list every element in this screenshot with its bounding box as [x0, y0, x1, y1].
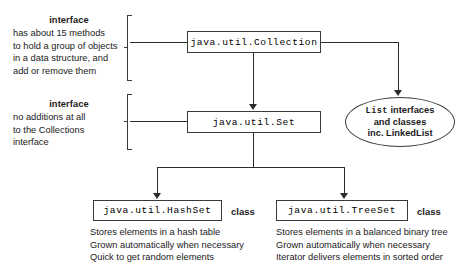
diagram-canvas: interface has about 15 methods to hold a… — [0, 0, 471, 271]
node-java-util-collection[interactable]: java.util.Collection — [187, 31, 321, 53]
arrowhead-set-to-hashset — [153, 193, 161, 199]
list-bubble-line-3: inc. LinkedList — [367, 128, 432, 139]
list-interfaces-bubble[interactable]: List interfaces and classes inc. LinkedL… — [345, 97, 455, 147]
connector-set-to-hashset — [157, 167, 158, 194]
description-hashset: Stores elements in a hash table Grown au… — [90, 226, 244, 264]
list-bubble-line-1: List interfaces — [366, 105, 435, 117]
annotation-header: interface — [13, 98, 125, 110]
connector-set-trunk — [253, 133, 254, 168]
node-java-util-set[interactable]: java.util.Set — [187, 111, 321, 133]
annotation-line: to hold a group of objects — [13, 40, 125, 52]
annotation-line: to the Collections — [13, 124, 125, 136]
description-line: Stores elements in a balanced binary tre… — [276, 226, 448, 239]
node-java-util-hashset[interactable]: java.util.HashSet — [93, 200, 222, 221]
connector-collection-to-set — [253, 53, 254, 105]
list-bubble-rest-label: interfaces — [390, 105, 434, 115]
arrowhead-collection-to-set — [249, 104, 257, 110]
connector-note-to-set — [130, 121, 187, 122]
description-treeset: Stores elements in a balanced binary tre… — [276, 226, 448, 264]
bracket-collection — [124, 15, 133, 81]
description-line: Grown automatically when necessary — [90, 239, 244, 252]
description-line: Iterator delivers elements in sorted ord… — [276, 251, 448, 264]
annotation-set-note: interface no additions at all to the Col… — [13, 98, 125, 149]
connector-note-to-collection — [130, 42, 188, 43]
annotation-line: has about 15 methods — [13, 27, 125, 39]
bracket-spine — [127, 94, 128, 150]
annotation-line: add or remove them — [13, 65, 125, 77]
list-bubble-mono-label: List — [366, 106, 388, 116]
arrowhead-collection-to-list — [394, 90, 402, 96]
bracket-spine — [127, 15, 128, 81]
bracket-middle-nub — [124, 47, 128, 48]
arrowhead-set-to-treeset — [340, 193, 348, 199]
connector-set-crossbar — [157, 167, 345, 168]
annotation-line: in a data structure, and — [13, 52, 125, 64]
description-line: Stores elements in a hash table — [90, 226, 244, 239]
kind-label-hashset: class — [231, 206, 255, 217]
bracket-hook-bottom — [127, 149, 132, 150]
bracket-hook-bottom — [127, 80, 132, 81]
node-java-util-treeset[interactable]: java.util.TreeSet — [276, 200, 408, 221]
annotation-header: interface — [13, 14, 125, 26]
bracket-hook-top — [127, 15, 132, 16]
bracket-middle-nub — [124, 121, 128, 122]
bracket-hook-top — [127, 94, 132, 95]
annotation-line: interface — [13, 136, 125, 148]
connector-set-to-treeset — [344, 167, 345, 194]
connector-collection-to-list-v — [398, 42, 399, 91]
kind-label-treeset: class — [417, 206, 441, 217]
annotation-line: no additions at all — [13, 111, 125, 123]
bracket-set — [124, 94, 133, 150]
description-line: Quick to get random elements — [90, 251, 244, 264]
connector-collection-to-list-h — [321, 42, 399, 43]
description-line: Grown automatically when necessary — [276, 239, 448, 252]
annotation-collection-note: interface has about 15 methods to hold a… — [13, 14, 125, 77]
list-bubble-line-2: and classes — [374, 117, 427, 128]
